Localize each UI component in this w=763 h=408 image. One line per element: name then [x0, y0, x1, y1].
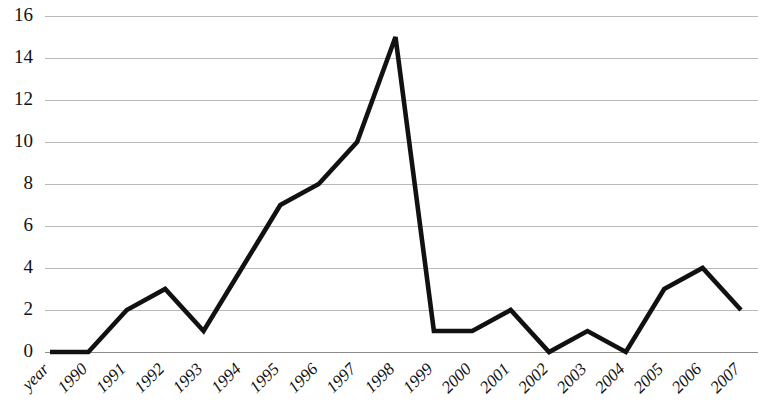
y-axis-tick-label: 16 — [14, 4, 33, 25]
y-axis-tick-label: 2 — [24, 298, 34, 319]
y-axis-tick-label: 4 — [24, 256, 34, 277]
y-axis-tick-label: 0 — [24, 340, 34, 361]
chart-canvas: 0246810121416 year1990199119921993199419… — [0, 0, 763, 408]
y-axis-tick-label: 14 — [14, 46, 34, 67]
y-axis-tick-label: 6 — [24, 214, 34, 235]
line-chart: 0246810121416 year1990199119921993199419… — [0, 0, 763, 408]
y-axis-tick-label: 8 — [24, 172, 34, 193]
y-axis-tick-label: 10 — [14, 130, 33, 151]
y-axis-tick-label: 12 — [14, 88, 33, 109]
chart-background — [0, 0, 763, 408]
